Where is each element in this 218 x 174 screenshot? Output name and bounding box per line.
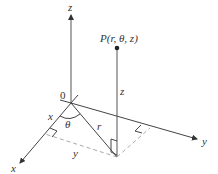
right-angle-mark-x bbox=[50, 128, 57, 137]
origin-label: 0 bbox=[60, 89, 66, 101]
cylindrical-coordinates-diagram: z y x 0 P(r, θ, z) x θ r z y bbox=[0, 0, 218, 174]
y-axis bbox=[71, 103, 197, 139]
r-segment bbox=[71, 103, 117, 157]
z-axis-label: z bbox=[67, 1, 73, 13]
right-angle-mark-y bbox=[135, 125, 142, 133]
theta-label: θ bbox=[65, 118, 71, 130]
y-axis-label: y bbox=[201, 135, 207, 147]
point-label: P(r, θ, z) bbox=[99, 32, 138, 45]
dashed-to-x-axis bbox=[45, 134, 117, 157]
right-angle-mark-z bbox=[111, 139, 117, 155]
y-segment-label: y bbox=[72, 147, 78, 159]
r-label: r bbox=[97, 120, 102, 132]
x-segment-label: x bbox=[47, 110, 53, 122]
x-axis-label: x bbox=[10, 162, 16, 174]
x-axis-back bbox=[71, 95, 78, 103]
z-segment-label: z bbox=[119, 85, 125, 97]
point-p bbox=[115, 46, 120, 51]
dashed-to-y-axis bbox=[117, 128, 150, 157]
x-axis bbox=[20, 103, 71, 163]
